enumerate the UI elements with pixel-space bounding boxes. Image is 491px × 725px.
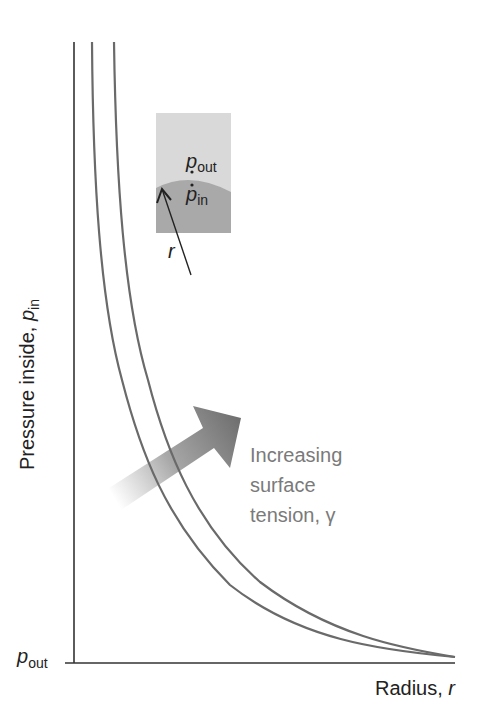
annotation-line-3: tension, γ [250,504,336,526]
x-axis-label: Radius, r [375,677,456,699]
y-axis-label: Pressure inside, pin [16,299,42,470]
increasing-tension-arrow-icon [109,406,241,510]
inset-radius-label: r [168,240,176,262]
pressure-curves [92,42,455,657]
bubble-inset: pout pin r [156,113,231,275]
curve-lower-tension [92,42,455,657]
axes [65,42,455,663]
surface-tension-diagram: pout pin r pout Radius, r Pressure insid… [0,0,491,725]
annotation-line-1: Increasing [250,444,342,466]
y-baseline-p-out-label: pout [16,645,48,671]
increasing-tension-annotation: Increasing surface tension, γ [250,444,342,526]
annotation-line-2: surface [250,474,316,496]
